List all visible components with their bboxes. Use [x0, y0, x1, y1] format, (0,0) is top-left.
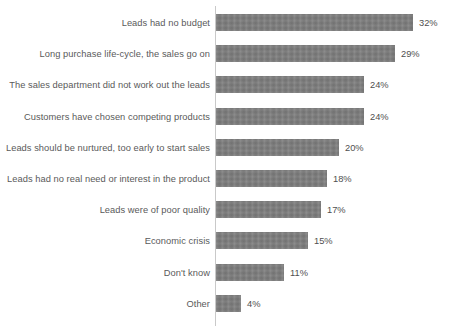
value-label: 32% — [419, 18, 438, 28]
bar — [216, 139, 339, 156]
plot-area: Leads had no budget32%Long purchase life… — [0, 0, 450, 334]
bar — [216, 232, 308, 249]
bar — [216, 108, 364, 125]
bar — [216, 201, 321, 218]
bar-row: The sales department did not work out th… — [0, 76, 450, 93]
category-label: The sales department did not work out th… — [9, 80, 210, 90]
value-label: 29% — [401, 49, 420, 59]
value-label: 20% — [345, 143, 364, 153]
bar — [216, 14, 413, 31]
bar-row: Other4% — [0, 295, 450, 312]
category-label: Customers have chosen competing products — [24, 112, 210, 122]
bar — [216, 170, 327, 187]
value-label: 24% — [370, 112, 389, 122]
category-label: Long purchase life-cycle, the sales go o… — [39, 49, 210, 59]
bar-row: Long purchase life-cycle, the sales go o… — [0, 45, 450, 62]
bar-row: Customers have chosen competing products… — [0, 108, 450, 125]
bar — [216, 76, 364, 93]
value-label: 24% — [370, 80, 389, 90]
value-label: 15% — [314, 236, 333, 246]
value-label: 17% — [327, 205, 346, 215]
chart-footnote — [0, 326, 450, 334]
bar — [216, 45, 395, 62]
category-label: Leads should be nurtured, too early to s… — [6, 143, 210, 153]
category-label: Other — [186, 299, 210, 309]
bar-row: Economic crisis15% — [0, 232, 450, 249]
bar — [216, 295, 241, 312]
bar-row: Don't know11% — [0, 264, 450, 281]
bar-row: Leads had no real need or interest in th… — [0, 170, 450, 187]
bar-row: Leads should be nurtured, too early to s… — [0, 139, 450, 156]
value-label: 18% — [333, 174, 352, 184]
category-label: Don't know — [164, 268, 210, 278]
value-label: 11% — [290, 268, 308, 278]
value-label: 4% — [247, 299, 260, 309]
bar-row: Leads had no budget32% — [0, 14, 450, 31]
bar-chart: Leads had no budget32%Long purchase life… — [0, 0, 450, 334]
category-label: Leads were of poor quality — [100, 205, 210, 215]
bar-row: Leads were of poor quality17% — [0, 201, 450, 218]
category-label: Leads had no real need or interest in th… — [7, 174, 210, 184]
bar — [216, 264, 284, 281]
category-label: Economic crisis — [145, 236, 210, 246]
category-label: Leads had no budget — [122, 18, 210, 28]
